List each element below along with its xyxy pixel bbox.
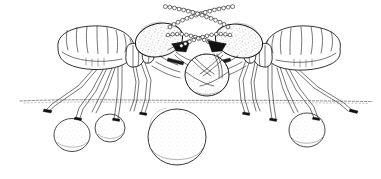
held-ball (185, 54, 229, 96)
ground-ball-2 (95, 114, 125, 142)
right-ant-gaster (265, 26, 341, 70)
ground-ball-3 (148, 108, 206, 165)
ground-ball-1 (54, 119, 90, 152)
ant-pair-drawing (0, 0, 381, 179)
left-ant-gaster (58, 26, 135, 70)
ground-ball-4 (289, 113, 325, 147)
illustration-canvas: Two ants facing each other on stippled g… (0, 0, 381, 179)
